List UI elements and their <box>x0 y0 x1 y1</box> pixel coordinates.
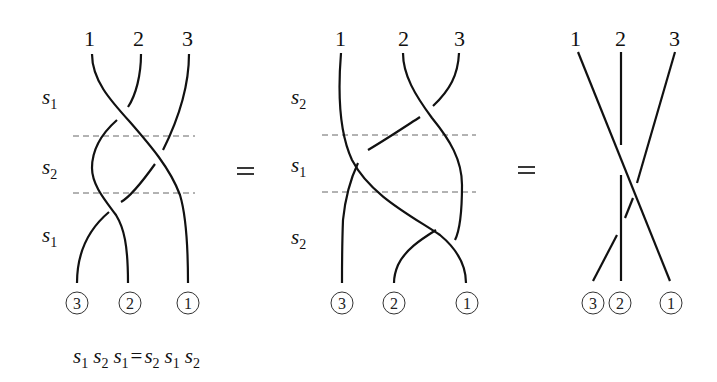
top-label-1: 1 <box>84 26 95 51</box>
strand-2 <box>394 230 436 283</box>
top-label-2: 2 <box>133 26 144 51</box>
bottom-label-1: 1 <box>456 292 478 314</box>
strand-3 <box>637 52 675 183</box>
strand-1 <box>339 53 466 283</box>
top-label-3: 3 <box>669 26 680 51</box>
top-label-2: 2 <box>615 26 626 51</box>
braid-2: 1 2 3 s2 s1 s2 3 2 1 <box>291 26 478 314</box>
top-label-2: 2 <box>398 26 409 51</box>
braid-relation-equation: s1s2s1=s2s1s2 <box>73 344 200 371</box>
top-label-3: 3 <box>182 26 193 51</box>
svg-text:3: 3 <box>73 295 81 312</box>
bottom-label-3: 3 <box>331 292 353 314</box>
top-label-1: 1 <box>570 26 581 51</box>
generator-label: s1 <box>291 153 306 180</box>
strand-3 <box>77 212 109 283</box>
svg-text:2: 2 <box>390 295 398 312</box>
equals-sign <box>237 168 254 174</box>
generator-label: s2 <box>291 225 306 252</box>
bottom-label-1: 1 <box>177 292 199 314</box>
top-label-1: 1 <box>335 26 346 51</box>
svg-text:1: 1 <box>184 295 192 312</box>
svg-text:1: 1 <box>667 295 675 312</box>
bottom-label-3: 3 <box>582 292 604 314</box>
svg-text:3: 3 <box>589 295 597 312</box>
svg-text:1: 1 <box>463 295 471 312</box>
bottom-label-2: 2 <box>383 292 405 314</box>
strand-1 <box>578 52 670 281</box>
svg-text:3: 3 <box>338 295 346 312</box>
svg-text:2: 2 <box>126 295 134 312</box>
strand-3 <box>368 117 420 150</box>
bottom-label-3: 3 <box>66 292 88 314</box>
bottom-label-2: 2 <box>119 292 141 314</box>
top-label-3: 3 <box>454 26 465 51</box>
strand-2 <box>128 54 141 107</box>
strand-3 <box>625 198 633 218</box>
bottom-label-2: 2 <box>609 292 631 314</box>
braid-3: 1 2 3 3 2 1 <box>570 26 682 314</box>
svg-text:2: 2 <box>616 295 624 312</box>
braid-diagram: 1 2 3 s1 s2 s1 3 2 1 <box>0 0 717 382</box>
equals-sign <box>518 167 535 173</box>
strand-1 <box>92 54 188 283</box>
generator-label: s1 <box>42 223 57 250</box>
generator-label: s2 <box>291 85 306 112</box>
strand-3 <box>593 235 617 281</box>
braid-1: 1 2 3 s1 s2 s1 3 2 1 <box>42 26 199 314</box>
strand-3 <box>121 164 155 202</box>
generator-label: s2 <box>42 155 57 182</box>
strand-3 <box>433 53 459 106</box>
generator-label: s1 <box>42 85 57 112</box>
bottom-label-1: 1 <box>660 292 682 314</box>
strand-3 <box>342 163 358 283</box>
